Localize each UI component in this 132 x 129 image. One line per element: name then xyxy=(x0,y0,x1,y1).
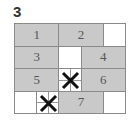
piece-3[interactable]: 3 xyxy=(14,46,59,70)
piece-5[interactable]: 5 xyxy=(14,68,59,92)
empty-cell[interactable] xyxy=(103,91,126,115)
blocked-cell xyxy=(58,68,81,92)
piece-label: 2 xyxy=(78,27,85,43)
piece-label: 5 xyxy=(33,72,40,88)
x-mark-icon xyxy=(39,94,58,113)
piece-1[interactable]: 1 xyxy=(14,23,59,47)
empty-cell[interactable] xyxy=(58,46,81,70)
piece-6[interactable]: 6 xyxy=(81,68,126,92)
piece-label: 1 xyxy=(33,27,40,43)
blocked-cell xyxy=(36,91,59,115)
empty-cell[interactable] xyxy=(103,23,126,47)
piece-7[interactable]: 7 xyxy=(58,91,103,115)
puzzle-grid: 1234567 xyxy=(14,23,125,113)
piece-label: 3 xyxy=(33,49,40,65)
piece-label: 4 xyxy=(100,49,107,65)
piece-label: 7 xyxy=(78,94,85,110)
x-mark-icon xyxy=(61,71,80,90)
piece-2[interactable]: 2 xyxy=(58,23,103,47)
puzzle-number: 3 xyxy=(13,3,21,20)
empty-cell[interactable] xyxy=(14,91,37,115)
piece-label: 6 xyxy=(100,72,107,88)
piece-4[interactable]: 4 xyxy=(81,46,126,70)
